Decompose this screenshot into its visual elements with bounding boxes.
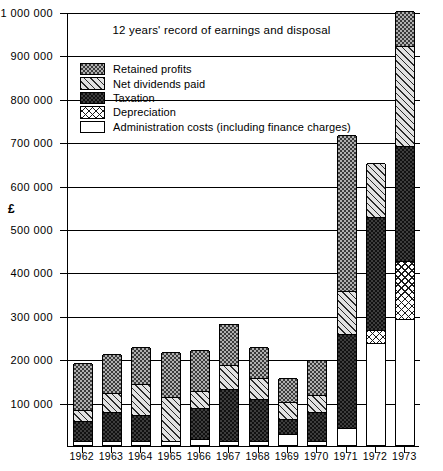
- legend-label: Retained profits: [113, 63, 192, 75]
- bar-segment: [338, 291, 356, 334]
- bar-segment: [367, 217, 385, 330]
- bar-segment: [338, 334, 356, 427]
- legend-label: Depreciation: [113, 106, 176, 118]
- y-axis-tick-mark: [60, 56, 67, 57]
- bar-segment: [162, 352, 180, 398]
- x-axis-tick-label-1963: 1963: [96, 450, 125, 462]
- x-axis-tick-label-1967: 1967: [214, 450, 243, 462]
- bar-segment: [367, 343, 385, 445]
- bar-segment: [132, 415, 150, 441]
- bar-segment: [367, 163, 385, 217]
- y-axis-tick-label: 1 000 000: [0, 7, 53, 19]
- bar-segment: [250, 347, 268, 377]
- bar-segment: [308, 441, 326, 445]
- bar-segment: [338, 135, 356, 291]
- x-axis-tick-label-1968: 1968: [243, 450, 272, 462]
- bar-1973[interactable]: [395, 12, 415, 446]
- legend-item[interactable]: Retained profits: [80, 62, 351, 76]
- y-axis-tick-label: 400 000: [10, 267, 53, 279]
- legend-swatch-icon: [80, 106, 105, 119]
- bar-1967[interactable]: [219, 324, 239, 446]
- bar-1969[interactable]: [278, 379, 298, 446]
- y-axis-tick-mark: [60, 230, 67, 231]
- y-axis-tick-label: 300 000: [10, 311, 53, 323]
- chart-figure: 12 years' record of earnings and disposa…: [0, 0, 443, 471]
- bar-segment: [103, 441, 121, 445]
- y-axis-tick-mark: [60, 143, 67, 144]
- legend-item[interactable]: Net dividends paid: [80, 76, 351, 90]
- bar-segment: [308, 412, 326, 440]
- legend-item[interactable]: Administration costs (including finance …: [80, 120, 351, 134]
- bar-segment: [162, 441, 180, 445]
- bar-segment: [103, 354, 121, 393]
- bar-segment: [162, 397, 180, 440]
- bar-1972[interactable]: [366, 164, 386, 446]
- bar-1964[interactable]: [131, 348, 151, 446]
- bar-segment: [250, 378, 268, 400]
- bar-segment: [279, 402, 297, 419]
- bar-segment: [74, 441, 92, 445]
- bar-1968[interactable]: [249, 348, 269, 446]
- bar-1963[interactable]: [102, 355, 122, 446]
- legend-label: Taxation: [113, 92, 155, 104]
- bar-segment: [220, 441, 238, 445]
- y-axis-tick-mark: [60, 187, 67, 188]
- legend-swatch-icon: [80, 77, 105, 90]
- y-axis-tick-mark: [60, 360, 67, 361]
- y-axis-tick-mark: [60, 404, 67, 405]
- bar-1971[interactable]: [337, 136, 357, 446]
- legend-item[interactable]: Depreciation: [80, 105, 351, 119]
- bar-segment: [103, 412, 121, 440]
- bar-1965[interactable]: [161, 353, 181, 446]
- bar-segment: [250, 399, 268, 440]
- gridline: [68, 143, 420, 144]
- legend-item[interactable]: Taxation: [80, 91, 351, 105]
- bar-segment: [132, 384, 150, 414]
- bar-segment: [396, 11, 414, 46]
- bar-1970[interactable]: [307, 361, 327, 446]
- x-axis-tick-label-1971: 1971: [331, 450, 360, 462]
- legend-swatch-icon: [80, 92, 105, 105]
- y-axis-tick-mark: [60, 13, 67, 14]
- legend: Retained profitsNet dividends paidTaxati…: [80, 62, 351, 134]
- bar-segment: [220, 324, 238, 365]
- legend-label: Net dividends paid: [113, 78, 205, 90]
- bar-segment: [74, 410, 92, 421]
- y-axis-tick-label: 800 000: [10, 94, 53, 106]
- y-axis: 1 000 000900 000800 000700 000600 000500…: [0, 0, 63, 471]
- bar-segment: [191, 439, 209, 446]
- bar-segment: [250, 441, 268, 445]
- bar-segment: [191, 408, 209, 438]
- x-axis-tick-label-1973: 1973: [390, 450, 419, 462]
- y-axis-tick-mark: [60, 100, 67, 101]
- x-axis-tick-label-1970: 1970: [302, 450, 331, 462]
- bar-segment: [279, 434, 297, 445]
- bar-segment: [396, 261, 414, 320]
- bar-segment: [191, 391, 209, 408]
- bar-segment: [132, 441, 150, 445]
- x-axis-tick-label-1965: 1965: [155, 450, 184, 462]
- y-axis-tick-label: 700 000: [10, 137, 53, 149]
- bar-segment: [308, 360, 326, 395]
- y-axis-tick-label: 900 000: [10, 50, 53, 62]
- gridline: [68, 56, 420, 57]
- y-axis-tick-mark: [60, 273, 67, 274]
- y-axis-tick-label: 600 000: [10, 181, 53, 193]
- x-axis-tick-label-1969: 1969: [272, 450, 301, 462]
- gridline: [68, 13, 420, 14]
- bar-segment: [367, 330, 385, 343]
- x-axis-tick-label-1962: 1962: [67, 450, 96, 462]
- x-axis-tick-label-1972: 1972: [360, 450, 389, 462]
- bar-1962[interactable]: [73, 364, 93, 446]
- x-axis-tick-label-1966: 1966: [184, 450, 213, 462]
- bar-segment: [279, 419, 297, 434]
- y-axis-tick-label: 500 000: [10, 224, 53, 236]
- bar-segment: [338, 428, 356, 445]
- bar-segment: [220, 389, 238, 441]
- bar-1966[interactable]: [190, 351, 210, 446]
- bar-segment: [220, 365, 238, 389]
- bar-segment: [396, 46, 414, 146]
- bar-segment: [308, 395, 326, 412]
- bar-segment: [103, 393, 121, 413]
- bar-segment: [74, 421, 92, 441]
